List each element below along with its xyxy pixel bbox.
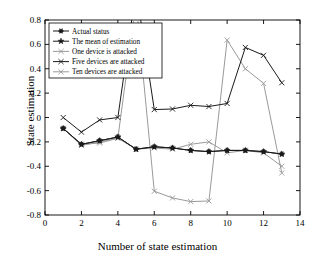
legend-label: Actual status bbox=[72, 28, 110, 36]
x-tick-label: 14 bbox=[296, 218, 306, 228]
legend: Actual statusThe mean of estimationOne d… bbox=[49, 23, 162, 78]
y-tick-label: 0 bbox=[37, 113, 42, 123]
x-tick-label: 10 bbox=[223, 218, 233, 228]
chart-canvas: 02468101214 -0.8-0.6-0.4-0.200.20.40.60.… bbox=[0, 0, 315, 263]
y-tick-label: -0.8 bbox=[27, 210, 42, 220]
y-tick-label: 0.8 bbox=[30, 15, 42, 25]
y-axis-label: State estimation bbox=[24, 31, 36, 191]
x-tick-label: 2 bbox=[79, 218, 84, 228]
x-tick-label: 12 bbox=[259, 218, 268, 228]
x-axis-label: Number of state estimation bbox=[0, 240, 315, 252]
legend-label: Five devices are attacked bbox=[72, 58, 145, 66]
figure: 02468101214 -0.8-0.6-0.4-0.200.20.40.60.… bbox=[0, 0, 315, 263]
x-tick-label: 8 bbox=[188, 218, 193, 228]
legend-label: The mean of estimation bbox=[72, 38, 140, 46]
x-tick-label: 6 bbox=[152, 218, 157, 228]
x-tick-label: 4 bbox=[116, 218, 121, 228]
x-tick-label: 0 bbox=[43, 218, 48, 228]
legend-label: One device is attacked bbox=[72, 48, 137, 56]
legend-label: Ten devices are attacked bbox=[72, 68, 143, 76]
